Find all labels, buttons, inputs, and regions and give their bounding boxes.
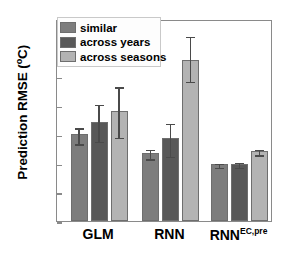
x-tick-label-rnn: RNN [154,226,184,242]
x-tick-label-base: RNN [210,227,240,243]
bar-rnn-across-seasons [182,60,199,221]
error-bar-cap-top [95,105,104,106]
error-bar-cap-bottom [235,168,244,169]
x-tick-label-base: GLM [83,226,114,242]
error-bar-cap-top [146,150,155,151]
error-bar-cap-top [215,164,224,165]
y-axis-label-container: Prediction RMSE (oC) [0,0,30,230]
error-bar-cap-bottom [215,168,224,169]
x-tick-label-superscript: EC,pre [240,226,267,236]
y-tick-mark [57,136,62,137]
error-bar-cap-bottom [95,142,104,143]
error-bar-line [190,37,191,82]
legend-label: similar [80,22,117,34]
error-bar-line [170,124,171,157]
chart-legend: similaracross yearsacross seasons [57,17,161,67]
error-bar-cap-bottom [115,138,124,139]
error-bar-cap-bottom [166,157,175,158]
y-tick-mark [57,193,62,194]
error-bar-cap-top [255,150,264,151]
legend-label: across years [80,36,150,48]
legend-swatch-icon [60,51,76,62]
legend-item-similar[interactable]: similar [60,21,157,35]
bar-glm-similar [71,134,88,221]
x-tick-label-rnn-sup: RNNEC,pre [210,226,268,243]
legend-item-across-seasons[interactable]: across seasons [60,50,157,64]
bar-rnn-similar [142,153,159,221]
error-bar-cap-top [75,128,84,129]
x-tick-label-base: RNN [154,226,184,242]
error-bar-line [118,88,119,138]
error-bar-cap-bottom [146,159,155,160]
error-bar-cap-bottom [186,82,195,83]
y-axis-label-main: Prediction RMSE ( [15,64,30,179]
error-bar-line [98,106,99,143]
error-bar-cap-top [235,163,244,164]
error-bar-cap-top [186,37,195,38]
error-bar-line [78,129,79,145]
y-tick-mark [57,107,62,108]
y-axis-label-tail: C) [15,45,30,59]
error-bar-cap-top [115,87,124,88]
bar-rnn-across-years [231,164,248,221]
bar-chart-figure: Prediction RMSE (oC) 00.511.522.533.5 GL… [0,0,287,259]
legend-swatch-icon [60,22,76,33]
x-tick-label-glm: GLM [83,226,114,242]
error-bar-cap-top [166,124,175,125]
error-bar-cap-bottom [75,144,84,145]
bar-rnn-across-seasons [251,151,268,221]
degree-symbol: o [14,59,24,64]
y-tick-mark [57,78,62,79]
y-tick-mark [57,165,62,166]
legend-swatch-icon [60,37,76,48]
bar-rnn-similar [211,164,228,221]
legend-label: across seasons [80,51,166,63]
legend-item-across-years[interactable]: across years [60,35,157,49]
y-tick-mark [57,222,62,223]
error-bar-cap-bottom [255,155,264,156]
y-axis-label: Prediction RMSE (oC) [14,12,31,212]
